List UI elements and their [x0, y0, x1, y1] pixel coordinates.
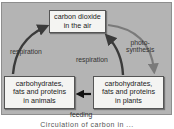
label-photosynthesis: photo- synthesis	[126, 39, 154, 54]
label-respiration-plants: respiration	[76, 56, 108, 63]
figure-caption: Circulation of carbon in ...	[0, 121, 174, 128]
node-carbohydrates-animals: carbohydrates, fats and proteins in anim…	[4, 76, 75, 109]
label-feeding: feeding	[70, 111, 92, 118]
node-carbohydrates-plants: carbohydrates, fats and proteins in plan…	[93, 76, 164, 109]
label-respiration-animals: respiration	[10, 48, 42, 55]
respiration-arrow-plants	[108, 37, 123, 75]
node-carbon-dioxide-air: carbon dioxide in the air	[49, 10, 106, 33]
